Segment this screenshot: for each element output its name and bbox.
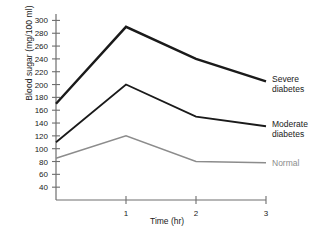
series-line (56, 27, 266, 104)
y-tick-label: 280 (35, 29, 49, 38)
series-label-line2: diabetes (272, 84, 304, 94)
x-tick-label: 3 (264, 209, 269, 218)
data-series-group (56, 27, 266, 163)
series-label-group: SeverediabetesModeratediabetesNormal (272, 74, 308, 167)
y-tick-label: 120 (35, 132, 49, 141)
y-tick-label: 300 (35, 16, 49, 25)
y-tick-label: 160 (35, 106, 49, 115)
blood-sugar-line-chart: 406080100120140160180200220240260280300 … (0, 0, 320, 245)
y-tick-label: 60 (39, 170, 48, 179)
series-line (56, 85, 266, 143)
series-label: Moderate (272, 119, 308, 129)
y-tick-label: 200 (35, 81, 49, 90)
y-tick-label: 140 (35, 119, 49, 128)
y-tick-label: 80 (39, 158, 48, 167)
y-tick-label: 180 (35, 93, 49, 102)
x-axis-tick-group: 123 (124, 196, 269, 218)
y-axis-title: Blood sugar (mg/100 ml) (24, 0, 34, 128)
series-label-line2: diabetes (272, 129, 304, 139)
y-tick-label: 220 (35, 68, 49, 77)
series-label: Severe (272, 74, 299, 84)
series-label: Normal (272, 158, 300, 168)
y-tick-label: 260 (35, 42, 49, 51)
series-line (56, 136, 266, 163)
x-axis-title: Time (hr) (150, 216, 184, 226)
plot-area: 406080100120140160180200220240260280300 … (0, 0, 320, 245)
x-tick-label: 2 (194, 209, 199, 218)
x-tick-label: 1 (124, 209, 129, 218)
y-tick-label: 100 (35, 145, 49, 154)
y-tick-label: 240 (35, 55, 49, 64)
y-tick-label: 40 (39, 183, 48, 192)
